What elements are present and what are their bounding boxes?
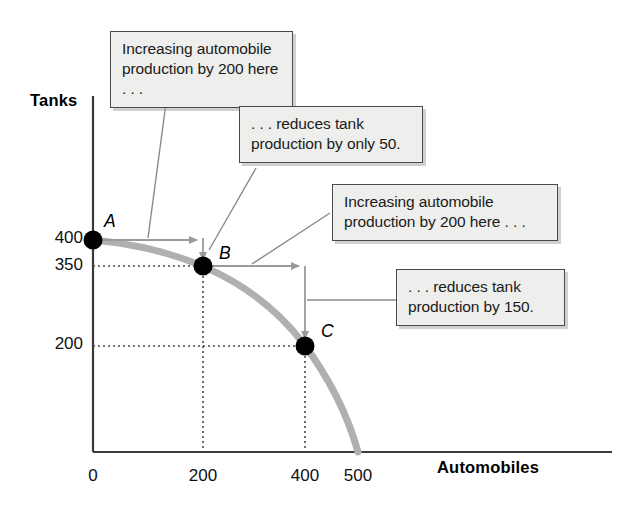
callout-reduce-tanks-50: . . . reduces tank production by only 50…: [239, 106, 423, 163]
callout-increase-autos-a-to-b: Increasing automobile production by 200 …: [110, 31, 293, 108]
ppf-figure: Tanks Automobiles 400 350 200 0 200 400 …: [0, 0, 617, 517]
x-tick-label-0: 0: [73, 466, 113, 486]
data-point-b: [194, 257, 213, 276]
ppf-curve: [93, 240, 358, 452]
x-axis-title: Automobiles: [437, 458, 539, 477]
leader-line-callout-1: [148, 88, 168, 238]
callout-reduce-tanks-150: . . . reduces tank production by 150.: [396, 269, 565, 326]
data-point-a: [84, 231, 103, 250]
y-tick-label-400: 400: [25, 228, 83, 248]
y-axis-title: Tanks: [30, 91, 77, 110]
x-tick-label-400: 400: [280, 466, 330, 486]
callout-increase-autos-b-to-c: Increasing automobile production by 200 …: [332, 184, 558, 241]
data-point-c: [296, 337, 315, 356]
leader-line-callout-2: [209, 168, 256, 250]
leader-line-callout-3: [252, 213, 330, 264]
point-label-c: C: [321, 321, 334, 342]
y-tick-label-350: 350: [25, 255, 83, 275]
point-label-a: A: [104, 211, 116, 232]
plot-area: [0, 0, 617, 517]
y-tick-label-200: 200: [25, 334, 83, 354]
x-tick-label-200: 200: [178, 466, 228, 486]
x-tick-label-500: 500: [333, 466, 383, 486]
point-label-b: B: [219, 243, 231, 264]
